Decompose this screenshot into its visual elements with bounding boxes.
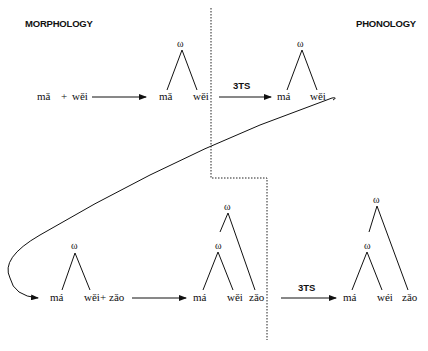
omega-node: ω (373, 194, 380, 205)
word: zǎo (249, 291, 264, 303)
word: zǎo (109, 291, 124, 303)
word: mǎ (159, 90, 172, 102)
word: mǎ (37, 90, 50, 102)
word: má (193, 291, 206, 303)
omega-node: ω (71, 240, 78, 251)
omega-node: ω (224, 201, 231, 212)
word: wěi (310, 90, 326, 102)
word: wěi (193, 90, 209, 102)
omega-node: ω (297, 38, 304, 49)
rule-label: 3TS (233, 80, 250, 91)
word: má (277, 90, 290, 102)
plus-sign: + (61, 90, 67, 102)
omega-node: ω (177, 38, 184, 49)
word: wěi (227, 291, 243, 303)
word: má (50, 291, 63, 303)
word: wěi (72, 90, 88, 102)
phonology-header: PHONOLOGY (356, 18, 416, 29)
morphology-header: MORPHOLOGY (25, 18, 93, 29)
rule-label: 3TS (298, 282, 315, 293)
plus-sign: + (100, 291, 106, 303)
word: má (343, 291, 356, 303)
word: wěi (84, 291, 100, 303)
word: wéi (377, 291, 393, 303)
diagram-lines (0, 0, 428, 351)
omega-node: ω (364, 240, 371, 251)
feed-arrow (8, 98, 335, 298)
omega-node: ω (215, 240, 222, 251)
word: zǎo (402, 291, 417, 303)
